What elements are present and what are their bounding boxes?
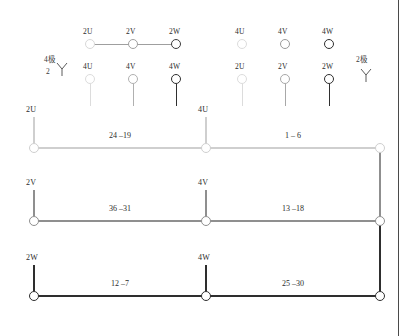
- row-1-rail-left: [34, 147, 206, 148]
- row-2-segment-label-right: 13 –18: [282, 204, 304, 213]
- wye-symbol-right-icon: [359, 67, 373, 83]
- right-top-row-terminal-4U[interactable]: [237, 39, 247, 49]
- row-3-label-mid: 4W: [198, 253, 210, 262]
- right-second-row-stem-2V: [285, 84, 286, 106]
- right-top-row-terminal-4W[interactable]: [324, 39, 334, 49]
- row-1-node-mid[interactable]: [201, 143, 211, 153]
- right-second-row-terminal-2U[interactable]: [237, 74, 247, 84]
- row-2-node-mid[interactable]: [201, 216, 211, 226]
- left-second-row-terminal-4U[interactable]: [85, 74, 95, 84]
- row-2-label-mid: 4V: [198, 178, 208, 187]
- left-second-row-terminal-4V[interactable]: [128, 74, 138, 84]
- left-second-row-stem-4V: [133, 84, 134, 106]
- right-top-row-label-4U: 4U: [235, 27, 245, 36]
- left-second-row-stem-4W: [176, 84, 177, 106]
- frame-right-border: [398, 0, 399, 336]
- row-3-stem-mid: [205, 265, 206, 291]
- left-second-row-label-4V: 4V: [126, 62, 136, 71]
- right-top-row-label-4V: 4V: [278, 27, 288, 36]
- row-3-label-left: 2W: [26, 253, 38, 262]
- right-second-row-label-2V: 2V: [278, 62, 288, 71]
- row-3-node-mid[interactable]: [201, 291, 211, 301]
- pole-label-left-text: 4极: [44, 55, 55, 64]
- row-3-node-right[interactable]: [375, 291, 385, 301]
- pole-label-right-text: 2极: [356, 55, 367, 64]
- right-second-row-label-2W: 2W: [322, 62, 333, 71]
- pole-label-left-sub-text: 2: [46, 67, 50, 76]
- row-2-segment-label-left: 36 –31: [109, 204, 131, 213]
- row-1-segment-label-right: 1 – 6: [285, 131, 301, 140]
- right-top-row-label-4W: 4W: [322, 27, 333, 36]
- left-second-row-label-4U: 4U: [83, 62, 93, 71]
- row-3-segment-label-right: 25 –30: [282, 279, 304, 288]
- row-2-node-right[interactable]: [375, 216, 385, 226]
- left-second-row-stem-4U: [90, 84, 91, 106]
- pole-label-left: 4极: [44, 56, 55, 64]
- row-2-stem-mid: [205, 190, 206, 216]
- row-1-segment-label-left: 24 –19: [109, 131, 131, 140]
- row-3-stem-left: [33, 265, 34, 291]
- row-1-label-mid: 4U: [198, 105, 208, 114]
- row-2-stem-left: [33, 190, 34, 216]
- row-1-node-left[interactable]: [29, 143, 39, 153]
- left-top-row-terminal-2W[interactable]: [171, 39, 181, 49]
- right-second-row-terminal-2V[interactable]: [280, 74, 290, 84]
- row-2-rail-left: [34, 220, 206, 221]
- left-top-row-label-2U: 2U: [83, 27, 93, 36]
- row-1-riser-right: [379, 148, 380, 216]
- row-3-node-left[interactable]: [29, 291, 39, 301]
- right-second-row-label-2U: 2U: [235, 62, 245, 71]
- left-second-row-terminal-4W[interactable]: [171, 74, 181, 84]
- left-top-row-label-2V: 2V: [126, 27, 136, 36]
- row-3-segment-label-left: 12 –7: [111, 279, 129, 288]
- right-second-row-stem-2U: [242, 84, 243, 106]
- left-second-row-label-4W: 4W: [169, 62, 180, 71]
- row-2-riser-right: [379, 221, 380, 291]
- row-1-stem-left: [33, 117, 34, 143]
- right-second-row-terminal-2W[interactable]: [324, 74, 334, 84]
- row-1-label-left: 2U: [26, 105, 36, 114]
- left-top-row-terminal-2U[interactable]: [85, 39, 95, 49]
- pole-label-right: 2极: [356, 56, 367, 64]
- row-1-stem-mid: [205, 117, 206, 143]
- wye-symbol-left-icon: [55, 61, 69, 77]
- row-1-node-right[interactable]: [375, 143, 385, 153]
- row-2-label-left: 2V: [26, 178, 36, 187]
- left-top-row-label-2W: 2W: [169, 27, 180, 36]
- row-3-rail-left: [34, 295, 206, 296]
- pole-label-left-sub: 2: [46, 68, 50, 76]
- row-2-node-left[interactable]: [29, 216, 39, 226]
- right-top-row-terminal-4V[interactable]: [280, 39, 290, 49]
- right-second-row-stem-2W: [329, 84, 330, 106]
- row-1-rail-right: [206, 147, 380, 148]
- row-3-rail-right: [206, 295, 380, 296]
- left-top-row-terminal-2V[interactable]: [128, 39, 138, 49]
- diagram-canvas: 2U2V2W4U4V4W4U4V4W2U2V2W 4极 2 2极 2U4U24 …: [0, 0, 403, 336]
- row-2-rail-right: [206, 220, 380, 221]
